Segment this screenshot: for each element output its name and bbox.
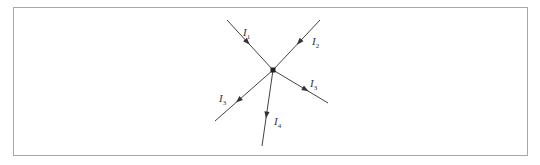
label-i4: I4 (273, 115, 282, 130)
label-i1: I1 (242, 26, 251, 41)
branch-i5 (215, 70, 273, 121)
branch-i1 (227, 20, 273, 70)
label-i3: I3 (309, 77, 318, 92)
branch-i4 (262, 70, 273, 146)
label-i2: I2 (311, 35, 320, 50)
junction-diagram: I1I2I3I4I3 (0, 0, 540, 165)
branch-i3 (273, 70, 328, 103)
arrow-i3-icon (301, 86, 310, 94)
junction-node (271, 68, 276, 73)
label-i5: I3 (218, 92, 227, 107)
